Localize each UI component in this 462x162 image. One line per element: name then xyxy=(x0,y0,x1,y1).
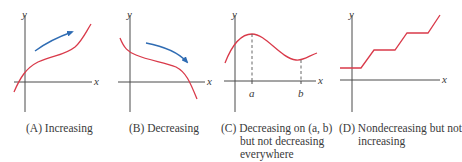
panel-c-tick-label-b: b xyxy=(298,87,304,99)
panel-d-caption-line-2: increasing xyxy=(339,135,462,148)
panel-c-caption-line-3: everywhere xyxy=(221,148,332,161)
panel-a-graph: y x xyxy=(14,8,99,112)
panel-d-x-label: x xyxy=(441,73,447,85)
panel-b-graph: y x xyxy=(118,8,212,112)
panel-a-y-label: y xyxy=(21,8,27,20)
panel-b-caption: (B) Decreasing xyxy=(129,122,199,135)
panel-d-caption: (D) Nondecreasing but not increasing xyxy=(339,122,462,148)
panel-c-y-label: y xyxy=(231,8,237,20)
panel-b-x-label: x xyxy=(206,75,212,87)
panel-d-caption-line-1: (D) Nondecreasing but not xyxy=(339,122,462,135)
panel-c-caption-line-1: (C) Decreasing on (a, b) xyxy=(221,122,332,135)
panel-c-caption: (C) Decreasing on (a, b) but not decreas… xyxy=(221,122,332,161)
panel-b-y-label: y xyxy=(126,8,132,20)
panel-a-caption-line-1: (A) Increasing xyxy=(26,122,93,135)
panel-a-caption: (A) Increasing xyxy=(26,122,93,135)
panel-d-step-curve xyxy=(340,15,440,68)
panel-b-decreasing-curve xyxy=(120,38,197,99)
panel-c-curve xyxy=(225,34,317,63)
panel-c-caption-line-2: but not decreasing xyxy=(221,135,332,148)
panel-c-graph: a b y x xyxy=(224,8,323,112)
panel-c-tick-label-a: a xyxy=(249,87,255,99)
panel-d-graph: y x xyxy=(340,8,447,112)
panel-d-y-label: y xyxy=(348,8,354,20)
panel-a-x-label: x xyxy=(93,75,99,87)
panel-c-x-label: x xyxy=(317,74,323,86)
panel-b-direction-arrow-icon xyxy=(146,43,187,62)
panel-b-caption-line-1: (B) Decreasing xyxy=(129,122,199,135)
panel-a-direction-arrow-icon xyxy=(35,32,72,51)
